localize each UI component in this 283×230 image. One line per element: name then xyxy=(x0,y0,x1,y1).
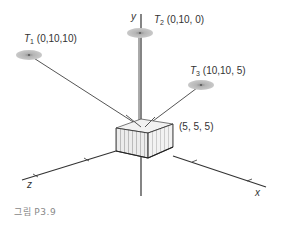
target-t1-index: 1 xyxy=(30,38,34,45)
target-t3-index: 3 xyxy=(196,70,200,77)
x-axis xyxy=(173,156,266,187)
target-t2-coords: (0,10, 0) xyxy=(167,14,204,25)
target-t1 xyxy=(16,50,42,60)
target-t1-label: T1 (0,10,10) xyxy=(24,33,77,45)
z-axis-label: z xyxy=(27,179,32,190)
target-t2 xyxy=(127,28,153,38)
box xyxy=(116,119,173,158)
x-axis-label: x xyxy=(255,187,260,198)
target-t1-coords: (0,10,10) xyxy=(37,33,77,44)
target-t3 xyxy=(188,80,214,90)
sight-lines xyxy=(29,35,201,127)
box-position-label: (5, 5, 5) xyxy=(179,121,213,132)
target-t2-index: 2 xyxy=(160,19,164,26)
figure-caption: 그림 P3.9 xyxy=(14,205,56,218)
target-t3-coords: (10,10, 5) xyxy=(203,65,246,76)
target-t3-label: T3 (10,10, 5) xyxy=(190,65,246,77)
target-t2-label: T2 (0,10, 0) xyxy=(154,14,204,26)
y-axis-label: y xyxy=(131,11,136,22)
z-axis xyxy=(22,151,116,180)
